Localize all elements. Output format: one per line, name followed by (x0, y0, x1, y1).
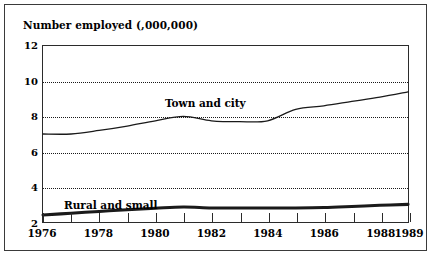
y-tick-label-10: 10 (18, 75, 38, 86)
x-tick-label-1989: 1989 (394, 227, 423, 239)
y-axis: 24681012 (14, 45, 38, 223)
x-tick-1986 (325, 213, 326, 222)
plot-area (42, 45, 409, 223)
x-tick-1985 (297, 213, 298, 222)
series-label-town-and-city: Town and city (165, 97, 246, 109)
chart-title: Number employed (,000,000) (23, 19, 198, 31)
x-tick-1977 (71, 213, 72, 222)
x-tick-1983 (241, 213, 242, 222)
x-tick-1976 (43, 213, 44, 222)
y-tick-label-8: 8 (18, 111, 38, 122)
x-tick-label-1980: 1980 (140, 227, 169, 239)
x-tick-label-1984: 1984 (253, 227, 282, 239)
x-tick-1984 (269, 213, 270, 222)
y-tick-label-4: 4 (18, 182, 38, 193)
series-label-rural-and-small: Rural and small (64, 199, 158, 211)
y-tick-label-12: 12 (18, 40, 38, 51)
x-tick-label-1988: 1988 (366, 227, 395, 239)
x-tick-1981 (184, 213, 185, 222)
x-tick-1978 (99, 213, 100, 222)
x-tick-1982 (212, 213, 213, 222)
x-axis-labels: 19761978198019821984198619881989 (42, 227, 409, 243)
x-tick-label-1976: 1976 (27, 227, 56, 239)
x-tick-1988 (382, 213, 383, 222)
x-tick-1980 (156, 213, 157, 222)
x-tick-label-1986: 1986 (310, 227, 339, 239)
x-tick-1979 (128, 213, 129, 222)
x-tick-label-1978: 1978 (84, 227, 113, 239)
series-lines (43, 46, 408, 222)
x-tick-1989 (410, 213, 411, 222)
chart-figure: Number employed (,000,000) 24681012 1976… (4, 4, 427, 251)
y-tick-label-6: 6 (18, 146, 38, 157)
x-tick-label-1982: 1982 (197, 227, 226, 239)
x-tick-1987 (354, 213, 355, 222)
